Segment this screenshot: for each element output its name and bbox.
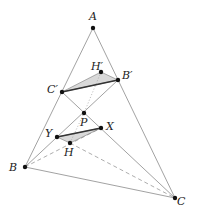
geometry-diagram: A B C B′ C′ H′ P X Y H [0, 0, 199, 216]
side-ab [25, 28, 93, 167]
side-bc [25, 167, 175, 198]
label-b1: B′ [122, 70, 133, 81]
point-y [55, 135, 59, 139]
line-c1-p-x-c [62, 92, 175, 198]
label-c: C [177, 196, 185, 207]
label-h: H [64, 147, 74, 158]
label-x: X [106, 121, 114, 132]
side-ac [93, 28, 175, 198]
point-x [99, 126, 103, 130]
label-y: Y [45, 128, 52, 139]
label-b: B [9, 162, 17, 173]
label-a: A [89, 11, 97, 22]
diagram-canvas [0, 0, 199, 216]
point-p [82, 111, 86, 115]
point-b1 [116, 78, 120, 82]
dashed-h-c [70, 143, 175, 198]
point-a [91, 26, 95, 30]
point-c1 [60, 90, 64, 94]
point-h [68, 141, 72, 145]
label-p: P [80, 117, 87, 128]
label-c1: C′ [47, 84, 58, 95]
label-h1: H′ [91, 61, 103, 72]
dashed-b-x [25, 128, 101, 167]
point-b [23, 165, 27, 169]
